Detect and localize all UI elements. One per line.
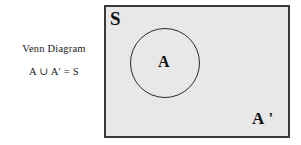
set-identity-formula: A ∪ A' = S [6, 65, 102, 78]
figure-caption: Venn Diagram A ∪ A' = S [6, 42, 102, 78]
set-a-complement-label: A ' [252, 110, 274, 127]
venn-diagram-figure: Venn Diagram A ∪ A' = S S A A ' [0, 0, 301, 145]
set-a-label: A [158, 54, 170, 70]
figure-title: Venn Diagram [6, 42, 102, 55]
universal-set-label: S [110, 9, 121, 28]
